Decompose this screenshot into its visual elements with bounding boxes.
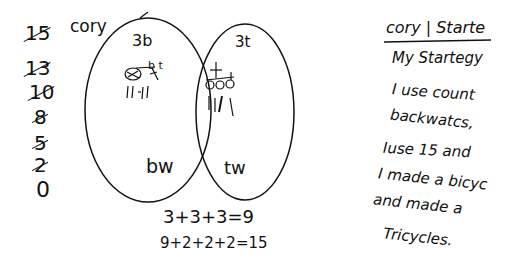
name-label: cory <box>70 16 107 36</box>
countdown-number: 8 <box>34 107 47 127</box>
explanation-line: Iuse 15 and <box>383 141 471 161</box>
countdown-number: 2 <box>34 155 47 175</box>
left-top-label: 3b <box>132 31 152 50</box>
countdown-number: 10 <box>29 82 54 102</box>
countdown-number: 15 <box>25 23 50 43</box>
countdown-number: 5 <box>34 133 47 153</box>
bike-letters: b t <box>148 59 163 72</box>
right-bottom-label: tw <box>224 157 246 178</box>
equation-1: 3+3+3=9 <box>163 206 254 227</box>
explanation-line: My Startegy <box>392 51 483 66</box>
right-top-label: 3t <box>235 33 250 51</box>
explanation-header: cory | Starte <box>386 20 485 36</box>
left-bottom-label: bw <box>146 155 174 177</box>
countdown-number: 0 <box>36 179 50 201</box>
countdown-number: 13 <box>25 58 50 78</box>
tricycle-icon <box>206 62 234 116</box>
equation-2: 9+2+2+2=15 <box>160 234 268 252</box>
header-underline <box>384 40 491 42</box>
